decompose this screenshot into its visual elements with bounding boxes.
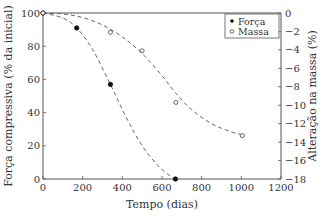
x-tick-label: 800 [192, 182, 211, 193]
y2-tick-label: −10 [285, 100, 306, 111]
forca-fit-curve [43, 13, 175, 179]
y-tick-label: 0 [34, 174, 40, 185]
y2-tick-label: −8 [285, 81, 300, 92]
y2-tick-label: −14 [285, 137, 306, 148]
x-tick-label: 200 [73, 182, 92, 193]
massa-data-point [174, 100, 178, 104]
legend-massa-label: Massa [238, 26, 269, 37]
y2-tick-label: −6 [285, 63, 300, 74]
legend-forca-marker-icon [230, 19, 234, 23]
data-points [41, 11, 245, 181]
fit-curves [43, 13, 242, 179]
massa-data-point [108, 30, 112, 34]
massa-fit-curve [43, 13, 242, 135]
y2-tick-label: −2 [285, 26, 300, 37]
y2-axis-title: Alteração na massa (%) [306, 30, 319, 163]
y-axis-title: Força compressiva (% da inicial) [2, 5, 15, 187]
y-tick-label: 100 [21, 8, 40, 19]
y-tick-label: 80 [27, 41, 40, 52]
x-tick-label: 400 [113, 182, 132, 193]
y-tick-label: 20 [27, 140, 40, 151]
y2-tick-label: −4 [285, 44, 300, 55]
y-tick-label: 40 [27, 107, 40, 118]
massa-data-point [240, 134, 244, 138]
y2-axis-ticks: 0−2−4−6−8−10−12−14−16−18 [278, 8, 306, 185]
legend: Força Massa [225, 14, 279, 38]
legend-massa-marker-icon [230, 30, 234, 34]
y2-tick-label: −12 [285, 118, 306, 129]
massa-data-point [140, 49, 144, 53]
y2-tick-label: −18 [285, 174, 306, 185]
dual-axis-line-chart: 020040060080010001200 020406080100 0−2−4… [0, 0, 326, 218]
forca-data-point [173, 177, 177, 181]
x-tick-label: 600 [152, 182, 171, 193]
forca-data-point [108, 82, 112, 86]
legend-forca-label: Força [238, 16, 266, 27]
y-axis-ticks: 020406080100 [21, 8, 46, 185]
y2-tick-label: 0 [285, 8, 291, 19]
forca-data-point [75, 26, 79, 30]
x-axis-title: Tempo (dias) [126, 198, 198, 211]
massa-data-point [41, 11, 45, 15]
x-tick-label: 1000 [229, 182, 254, 193]
y2-tick-label: −16 [285, 155, 306, 166]
x-tick-label: 0 [40, 182, 46, 193]
y-tick-label: 60 [27, 74, 40, 85]
